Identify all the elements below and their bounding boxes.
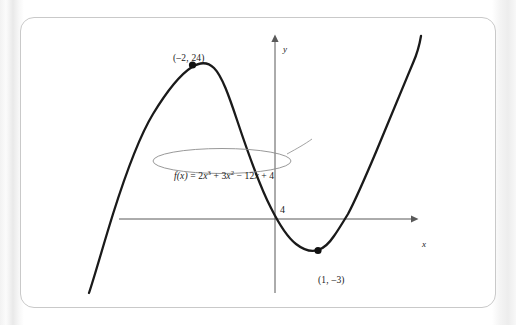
page-background: (–2, 24) (1, –3) 4 x y f(x) = 2x3 + 3x2 … — [0, 0, 516, 325]
y-axis — [271, 35, 278, 294]
equation-label: f(x) = 2x3 + 3x2 − 12x + 4 — [174, 171, 274, 181]
cubic-curve — [89, 36, 421, 293]
min-point-label: (1, –3) — [318, 276, 345, 286]
equation-plus-term: + 3 — [211, 170, 226, 181]
max-point-label: (–2, 24) — [173, 54, 205, 64]
graph-canvas — [21, 18, 497, 309]
x-axis-label: x — [422, 240, 426, 249]
y-intercept-label: 4 — [280, 205, 285, 215]
callout-leader-line — [287, 139, 312, 154]
min-point-marker — [314, 247, 321, 254]
equation-minus-term: − 12 — [234, 170, 254, 181]
equation-eq: = 2 — [188, 170, 203, 181]
equation-fx: f(x) — [174, 170, 188, 181]
graph-card: (–2, 24) (1, –3) 4 x y f(x) = 2x3 + 3x2 … — [20, 17, 496, 308]
equation-constant: + 4 — [259, 170, 274, 181]
x-axis — [119, 215, 419, 222]
y-axis-label: y — [283, 45, 287, 54]
